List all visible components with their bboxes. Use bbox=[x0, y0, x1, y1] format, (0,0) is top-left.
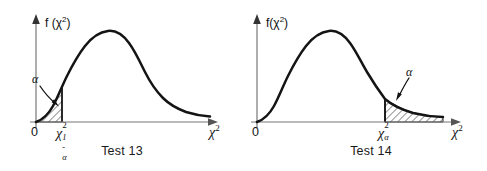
x-axis-label-left: χ2 bbox=[209, 124, 220, 140]
y-axis-label-base-right: f(χ bbox=[266, 16, 280, 30]
caption-test-14: Test 14 bbox=[249, 144, 487, 158]
alpha-annotation-arrow-left bbox=[40, 86, 59, 107]
caption-test-13: Test 13 bbox=[0, 144, 244, 158]
alpha-annotation-arrow-right bbox=[396, 78, 409, 101]
density-curve-right bbox=[257, 31, 443, 122]
y-axis-left bbox=[32, 14, 40, 128]
shaded-area-alpha-right bbox=[385, 99, 443, 122]
y-axis-label-right: f(χ2) bbox=[266, 16, 288, 29]
origin-label-left: 0 bbox=[31, 126, 38, 139]
shaded-area-alpha-left bbox=[36, 86, 62, 122]
critical-value-sup-right: 2 bbox=[384, 120, 389, 130]
critical-value-stack-right: χ2α bbox=[378, 126, 384, 142]
alpha-label-right: α bbox=[406, 66, 412, 78]
chart-panel-test-14: f(χ2) α 0 χ2α χ2 Test 14 bbox=[243, 0, 487, 171]
origin-label-right: 0 bbox=[252, 126, 259, 139]
y-axis-label-tail-right: ) bbox=[284, 16, 288, 30]
critical-value-label-left: χ21 - α bbox=[56, 126, 62, 142]
critical-value-sub-right: α bbox=[384, 132, 388, 142]
y-axis-label-tail-left: ) bbox=[66, 16, 70, 30]
chart-panel-test-13: f (χ2) α 0 χ21 - α χ2 Test 13 bbox=[0, 0, 244, 171]
critical-value-label-right: χ2α bbox=[378, 126, 384, 142]
y-axis-label-left: f (χ2) bbox=[45, 16, 70, 29]
y-axis-label-base-left: f (χ bbox=[45, 16, 62, 30]
y-axis-right bbox=[253, 14, 261, 128]
critical-value-sup-left: 2 bbox=[62, 120, 67, 130]
x-axis-label-sup-right: 2 bbox=[458, 123, 463, 133]
alpha-label-left: α bbox=[32, 73, 38, 85]
x-axis-label-sup-left: 2 bbox=[215, 123, 220, 133]
chi-square-figure: f (χ2) α 0 χ21 - α χ2 Test 13 bbox=[0, 0, 487, 171]
critical-value-stack-left: χ21 - α bbox=[56, 126, 62, 142]
x-axis-label-right: χ2 bbox=[452, 124, 463, 140]
